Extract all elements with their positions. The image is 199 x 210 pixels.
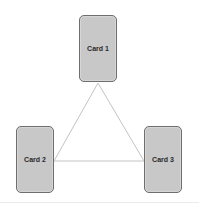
card-3-label: Card 3 xyxy=(152,156,174,163)
card-1[interactable]: Card 1 xyxy=(79,15,117,82)
card-2-label: Card 2 xyxy=(24,156,46,163)
card-1-label: Card 1 xyxy=(87,45,109,52)
card-2[interactable]: Card 2 xyxy=(16,126,54,193)
connector-card1-card3 xyxy=(98,83,144,161)
card-3[interactable]: Card 3 xyxy=(144,126,182,193)
card-triangle-diagram: Card 1 Card 2 Card 3 xyxy=(0,0,199,210)
connector-card1-card2 xyxy=(54,83,98,161)
bottom-divider xyxy=(0,202,199,203)
